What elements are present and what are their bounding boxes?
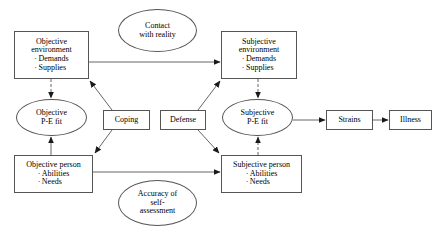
edge-coping-to-objective-env: [90, 81, 112, 110]
pe-fit-diagram: Objective environment Demands Supplies C…: [0, 0, 435, 233]
node-subjective-environment[interactable]: Subjective environment Demands Supplies: [221, 31, 297, 79]
node-objective-pe-fit[interactable]: Objective P-E fit: [16, 99, 87, 136]
illness-label: Illness: [400, 116, 421, 125]
coping-label: Coping: [115, 116, 139, 125]
node-illness[interactable]: Illness: [389, 110, 432, 130]
objective-pe-fit-line2: P-E fit: [41, 118, 62, 127]
node-objective-person[interactable]: Objective person Abilities Needs: [14, 155, 93, 193]
list-item: Supplies: [242, 64, 276, 73]
node-subjective-pe-fit[interactable]: Subjective P-E fit: [222, 99, 293, 136]
node-defense[interactable]: Defense: [160, 110, 206, 130]
node-coping[interactable]: Coping: [103, 110, 150, 130]
objective-environment-bullets: Demands Supplies: [34, 55, 68, 72]
contact-with-reality-line2: with reality: [139, 31, 176, 40]
subjective-environment-bullets: Demands Supplies: [242, 55, 276, 72]
accuracy-line3: assessment: [140, 207, 176, 216]
strains-label: Strains: [338, 116, 360, 125]
node-accuracy-of-self-assessment[interactable]: Accuracy of self- assessment: [118, 180, 197, 226]
edge-defense-to-subjective-env: [198, 81, 220, 110]
list-item: Supplies: [34, 64, 68, 73]
edge-coping-to-objective-person: [95, 130, 112, 153]
edge-defense-to-subjective-person: [198, 130, 219, 153]
node-objective-environment[interactable]: Objective environment Demands Supplies: [14, 31, 89, 79]
list-item: Needs: [38, 178, 70, 187]
objective-person-bullets: Abilities Needs: [38, 170, 70, 187]
subjective-person-bullets: Abilities Needs: [246, 170, 278, 187]
list-item: Needs: [246, 178, 278, 187]
node-strains[interactable]: Strains: [326, 110, 373, 130]
node-subjective-person[interactable]: Subjective person Abilities Needs: [221, 155, 302, 193]
defense-label: Defense: [170, 116, 196, 125]
node-contact-with-reality[interactable]: Contact with reality: [118, 9, 197, 52]
subjective-pe-fit-line2: P-E fit: [247, 118, 268, 127]
